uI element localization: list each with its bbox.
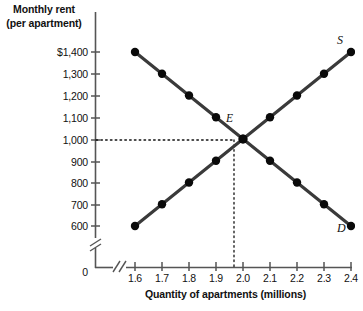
data-point xyxy=(158,200,166,208)
data-point xyxy=(320,200,328,208)
data-point xyxy=(131,48,139,56)
data-point xyxy=(266,113,274,121)
x-axis-break-icon xyxy=(113,261,126,272)
equilibrium-point xyxy=(238,134,247,143)
data-point xyxy=(131,222,139,230)
data-point xyxy=(347,222,355,230)
data-point xyxy=(212,157,220,165)
data-point xyxy=(185,178,193,186)
equilibrium-marker-dot xyxy=(238,134,247,143)
data-point xyxy=(347,48,355,56)
data-point xyxy=(266,157,274,165)
data-point xyxy=(212,113,220,121)
data-point xyxy=(158,70,166,78)
x-tick-marks xyxy=(135,262,351,271)
data-point xyxy=(185,91,193,99)
data-point xyxy=(320,70,328,78)
data-point xyxy=(293,91,301,99)
data-point xyxy=(293,178,301,186)
